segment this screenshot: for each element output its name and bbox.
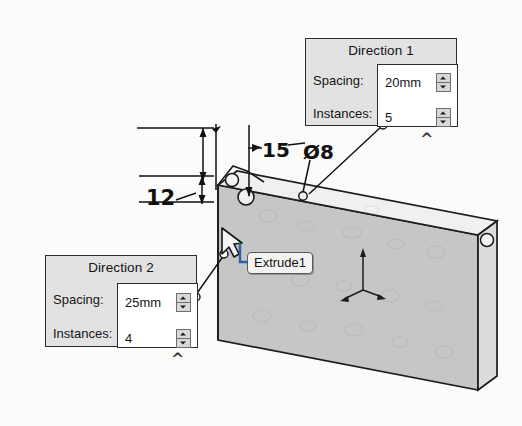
stepper-down-icon[interactable] — [177, 302, 190, 311]
direction-1-instances-label: Instances: — [306, 100, 377, 127]
direction-1-spacing-value: 20mm — [378, 75, 436, 90]
direction-1-spacing-field[interactable]: 20mm — [378, 67, 457, 98]
direction-2-spacing-value: 25mm — [118, 295, 176, 310]
dimension-label-12[interactable]: 12 — [146, 186, 175, 210]
direction-1-instances-stepper[interactable] — [436, 108, 451, 127]
direction-1-panel[interactable]: Direction 1 20mm 5 Spacing: Instances: — [305, 38, 457, 126]
stepper-up-icon[interactable] — [437, 74, 450, 82]
direction-2-instances-stepper[interactable] — [176, 329, 191, 348]
extruded-plate-body — [218, 171, 497, 390]
direction-2-spacing-field[interactable]: 25mm — [118, 287, 197, 318]
direction-2-instances-field[interactable]: 4 — [118, 323, 197, 354]
direction-1-collapse-chevron-up-icon[interactable]: ^ — [420, 131, 433, 147]
stepper-up-icon[interactable] — [177, 330, 190, 338]
direction-2-field-block: 25mm 4 — [117, 283, 198, 348]
direction-2-spacing-label: Spacing: — [46, 286, 109, 313]
direction-2-instances-value: 4 — [118, 331, 176, 346]
direction-2-instances-label: Instances: — [46, 320, 117, 347]
stepper-down-icon[interactable] — [177, 338, 190, 347]
direction-1-spacing-stepper[interactable] — [436, 73, 451, 92]
feature-tooltip: Extrude1 — [247, 252, 313, 274]
cad-viewport[interactable]: 12 15 Ø8 Extrude1 Direction 1 20mm 5 — [0, 0, 522, 426]
direction-2-title: Direction 2 — [46, 256, 196, 278]
direction-2-spacing-stepper[interactable] — [176, 293, 191, 312]
dimension-label-15[interactable]: 15 — [262, 138, 290, 162]
direction-1-instances-field[interactable]: 5 — [378, 102, 457, 133]
direction-2-collapse-chevron-up-icon[interactable]: ^ — [171, 351, 184, 367]
direction-1-spacing-label: Spacing: — [306, 67, 369, 94]
stepper-down-icon[interactable] — [437, 82, 450, 91]
direction-1-field-block: 20mm 5 — [377, 64, 458, 127]
hole-marker-right — [481, 234, 494, 247]
hole-marker-seed — [238, 189, 254, 205]
hole-marker-origin — [226, 174, 239, 187]
direction-1-title: Direction 1 — [306, 39, 456, 61]
direction-1-instances-value: 5 — [378, 110, 436, 125]
stepper-up-icon[interactable] — [177, 294, 190, 302]
stepper-down-icon[interactable] — [437, 117, 450, 126]
stepper-up-icon[interactable] — [437, 109, 450, 117]
dimension-label-diameter[interactable]: Ø8 — [303, 140, 334, 164]
direction-2-panel[interactable]: Direction 2 25mm 4 Spacing: Instances: — [45, 255, 197, 347]
dimension-upper[interactable] — [137, 124, 221, 190]
